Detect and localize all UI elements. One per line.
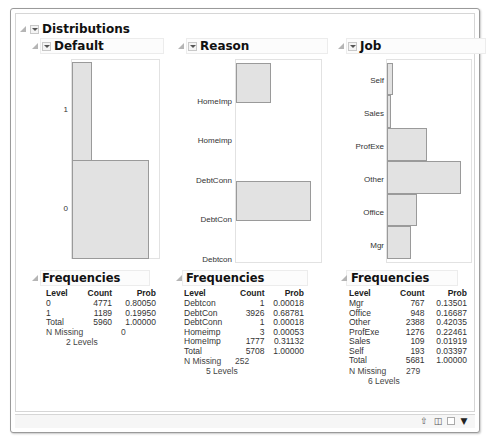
- reason-frequencies-table: Level Count Prob Debtcon 1 0.00018 DebtC…: [184, 288, 304, 356]
- status-bar-icons: ⇧ ◫ ▼: [419, 416, 469, 426]
- disclosure-triangle-icon[interactable]: [178, 43, 184, 49]
- n-missing-label: N Missing: [46, 327, 83, 337]
- default-outline: Default: [32, 39, 104, 53]
- default-histogram[interactable]: [71, 59, 160, 259]
- distributions-outline: Distributions: [20, 22, 130, 36]
- default-frequencies-table: Level Count Prob 0 4771 0.80050 1 1189 0…: [46, 288, 156, 328]
- report-title: Distributions: [42, 22, 130, 36]
- disclosure-triangle-icon[interactable]: [176, 275, 182, 281]
- level-cell: Total: [349, 356, 391, 366]
- axis-label: Other: [346, 175, 384, 184]
- levels-count: 6 Levels: [368, 376, 400, 386]
- red-triangle-menu-icon[interactable]: [188, 42, 197, 51]
- red-triangle-menu-icon[interactable]: [42, 42, 51, 51]
- bar-0[interactable]: [72, 160, 149, 259]
- reason-frequencies-outline: Frequencies: [176, 271, 264, 285]
- axis-label: DebtCon: [186, 215, 232, 224]
- default-frequencies-outline: Frequencies: [32, 271, 120, 285]
- reason-histogram[interactable]: [235, 59, 322, 263]
- bar-homeimp-upper[interactable]: [236, 63, 271, 103]
- axis-label: 1: [46, 105, 68, 114]
- disclosure-triangle-icon[interactable]: [20, 26, 26, 32]
- axis-label: Office: [346, 208, 384, 217]
- table-row: Total 5708 1.00000: [184, 347, 304, 357]
- report-window: Distributions Default 1 0 Frequencies Le…: [10, 8, 480, 433]
- red-triangle-menu-icon[interactable]: [348, 42, 357, 51]
- window-icon[interactable]: [447, 417, 455, 425]
- table-row: Total 5681 1.00000: [349, 356, 467, 366]
- disclosure-triangle-icon[interactable]: [341, 275, 347, 281]
- prob-cell: 1.00000: [425, 356, 467, 366]
- count-cell: 5681: [391, 356, 425, 366]
- frequencies-title: Frequencies: [42, 271, 120, 285]
- bar-office[interactable]: [387, 194, 417, 226]
- n-missing-label: N Missing: [184, 356, 221, 366]
- job-outline: Job: [338, 39, 381, 53]
- dropdown-icon[interactable]: ▼: [459, 416, 469, 426]
- report-body: Distributions Default 1 0 Frequencies Le…: [15, 13, 475, 412]
- bar-self[interactable]: [387, 63, 393, 95]
- job-frequencies-table: Level Count Prob Mgr 767 0.13501 Office …: [349, 288, 467, 366]
- panel-title: Job: [360, 39, 381, 53]
- panel-title: Reason: [200, 39, 249, 53]
- status-bar: ⇧ ◫ ▼: [15, 414, 475, 428]
- bar-debtcon[interactable]: [236, 181, 311, 221]
- axis-label: 0: [46, 204, 68, 213]
- axis-label: Debtcon: [186, 255, 232, 264]
- reason-outline: Reason: [178, 39, 249, 53]
- prob-cell: 1.00000: [265, 347, 304, 357]
- disclosure-triangle-icon[interactable]: [338, 43, 344, 49]
- level-cell: Total: [184, 347, 233, 357]
- frequencies-title: Frequencies: [186, 271, 264, 285]
- n-missing-value: 279: [406, 366, 420, 376]
- axis-label: Sales: [346, 109, 384, 118]
- panel-title: Default: [54, 39, 104, 53]
- levels-count: 5 Levels: [206, 366, 238, 376]
- axis-label: ProfExe: [346, 142, 384, 151]
- red-triangle-menu-icon[interactable]: [30, 25, 39, 34]
- up-arrow-icon[interactable]: ⇧: [419, 416, 429, 426]
- disclosure-triangle-icon[interactable]: [32, 275, 38, 281]
- count-cell: 5708: [233, 347, 264, 357]
- n-missing-value: 0: [121, 327, 126, 337]
- axis-label: HomeImp: [186, 97, 232, 106]
- axis-label: Homeimp: [186, 136, 232, 145]
- job-frequencies-outline: Frequencies: [341, 271, 429, 285]
- axis-label: Self: [346, 76, 384, 85]
- prob-cell: 1.00000: [112, 318, 156, 328]
- levels-count: 2 Levels: [66, 337, 98, 347]
- job-histogram[interactable]: [386, 59, 472, 263]
- bar-mgr[interactable]: [387, 226, 411, 259]
- bar-other[interactable]: [387, 161, 461, 194]
- n-missing-label: N Missing: [349, 366, 386, 376]
- n-missing-value: 252: [235, 356, 249, 366]
- bar-sales[interactable]: [387, 95, 391, 128]
- disclosure-triangle-icon[interactable]: [32, 43, 38, 49]
- axis-label: Mgr: [346, 241, 384, 250]
- export-icon[interactable]: ◫: [433, 416, 443, 426]
- axis-label: DebtConn: [186, 176, 232, 185]
- bar-1[interactable]: [72, 62, 92, 161]
- bar-profexe[interactable]: [387, 128, 427, 161]
- frequencies-title: Frequencies: [351, 271, 429, 285]
